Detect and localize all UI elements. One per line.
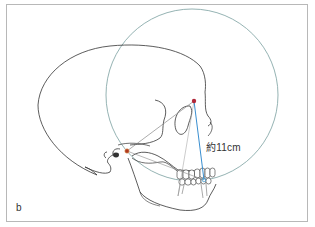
zygomatic-outline [130,100,166,145]
panel-label: b [16,202,22,213]
orbital-point [192,99,196,103]
condyle-point [125,149,129,153]
measurement-label: 約11cm [206,139,241,154]
measure-line [194,101,204,180]
ear-canal [113,153,119,158]
nasal-outline [205,92,211,126]
maxilla-lower [132,158,184,176]
tooth-roots [178,184,207,198]
condyle-incisal-line [127,151,204,180]
condyle-orbit-line [127,101,194,151]
skull-diagram [0,0,315,227]
teeth [177,168,215,185]
skull-base-outline [85,155,113,175]
reference-circle [106,9,278,181]
